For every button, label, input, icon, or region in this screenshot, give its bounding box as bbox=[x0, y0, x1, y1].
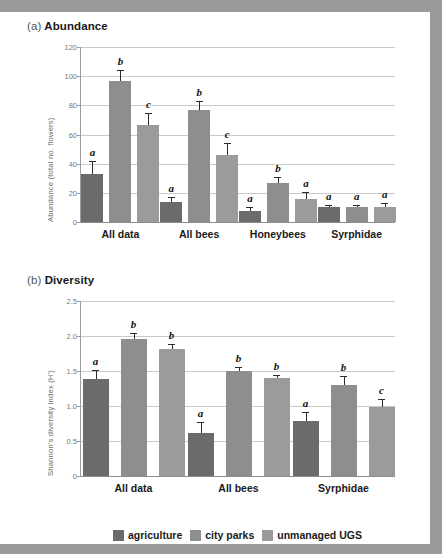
x-axis-category-label: All bees bbox=[179, 228, 219, 240]
error-bar bbox=[92, 161, 93, 173]
error-bar-cap bbox=[224, 143, 231, 144]
significance-letter: b bbox=[118, 55, 124, 67]
bar-unmanaged-UGS-all-bees bbox=[264, 378, 290, 476]
panel-a-title-text: Abundance bbox=[44, 20, 108, 32]
error-bar bbox=[201, 422, 202, 433]
y-tick-mark bbox=[77, 336, 81, 337]
significance-letter: a bbox=[247, 192, 253, 204]
significance-letter: b bbox=[131, 318, 137, 330]
bar-agriculture-all-data bbox=[81, 174, 103, 222]
error-bar-cap bbox=[168, 197, 175, 198]
x-axis-category-label: All data bbox=[101, 228, 139, 240]
y-tick-label: 60 bbox=[51, 130, 77, 139]
bar-agriculture-honeybees bbox=[239, 211, 261, 222]
y-tick-label: 0.5 bbox=[51, 437, 77, 446]
y-tick-mark bbox=[77, 47, 81, 48]
error-bar-cap bbox=[197, 422, 204, 423]
error-bar bbox=[199, 101, 200, 110]
bar-city-parks-all-data bbox=[121, 339, 147, 476]
bar-unmanaged-UGS-honeybees bbox=[295, 199, 317, 222]
error-bar bbox=[120, 70, 121, 82]
panel-b-title-text: Diversity bbox=[45, 274, 94, 286]
significance-letter: b bbox=[341, 361, 347, 373]
bar-city-parks-all-bees bbox=[188, 110, 210, 222]
error-bar-cap bbox=[340, 376, 347, 377]
error-bar-cap bbox=[274, 177, 281, 178]
legend-swatch-icon bbox=[113, 530, 124, 541]
bar-agriculture-all-data bbox=[83, 379, 109, 476]
error-bar-cap bbox=[381, 203, 388, 204]
significance-letter: a bbox=[90, 146, 96, 158]
legend-swatch-icon bbox=[262, 530, 273, 541]
y-tick-mark bbox=[77, 441, 81, 442]
error-bar-cap bbox=[196, 101, 203, 102]
legend-item-city-parks: city parks bbox=[190, 529, 254, 541]
significance-letter: b bbox=[274, 360, 280, 372]
significance-letter: c bbox=[379, 384, 384, 396]
bar-unmanaged-UGS-all-data bbox=[137, 125, 159, 222]
x-axis-category-label: Honeybees bbox=[250, 228, 306, 240]
x-axis-line bbox=[81, 222, 395, 223]
significance-letter: a bbox=[303, 397, 309, 409]
y-tick-mark bbox=[77, 301, 81, 302]
legend-swatch-icon bbox=[190, 530, 201, 541]
legend-label: agriculture bbox=[128, 529, 182, 541]
gridline bbox=[81, 301, 395, 302]
y-tick-mark bbox=[77, 222, 81, 223]
error-bar bbox=[344, 376, 345, 385]
bar-agriculture-syrphidae bbox=[318, 207, 340, 222]
y-tick-label: 2.0 bbox=[51, 332, 77, 341]
legend-label: unmanaged UGS bbox=[277, 529, 362, 541]
error-bar-cap bbox=[145, 113, 152, 114]
error-bar-cap bbox=[353, 205, 360, 206]
bar-unmanaged-UGS-syrphidae bbox=[374, 207, 396, 222]
bar-agriculture-all-bees bbox=[188, 433, 214, 476]
error-bar-cap bbox=[235, 367, 242, 368]
significance-letter: c bbox=[225, 128, 230, 140]
significance-letter: b bbox=[169, 329, 175, 341]
y-tick-label: 1.5 bbox=[51, 367, 77, 376]
y-tick-label: 2.5 bbox=[51, 297, 77, 306]
bar-city-parks-all-data bbox=[109, 81, 131, 222]
legend-item-agriculture: agriculture bbox=[113, 529, 182, 541]
y-tick-mark bbox=[77, 164, 81, 165]
bar-city-parks-syrphidae bbox=[331, 385, 357, 476]
error-bar-cap bbox=[378, 399, 385, 400]
legend-label: city parks bbox=[205, 529, 254, 541]
error-bar-cap bbox=[302, 412, 309, 413]
chart-legend: agriculturecity parksunmanaged UGS bbox=[113, 529, 362, 541]
gridline bbox=[81, 76, 395, 77]
y-tick-label: 80 bbox=[51, 101, 77, 110]
y-tick-label: 40 bbox=[51, 159, 77, 168]
error-bar bbox=[382, 399, 383, 407]
significance-letter: b bbox=[236, 352, 242, 364]
x-axis-category-label: All data bbox=[115, 482, 153, 494]
y-tick-mark bbox=[77, 476, 81, 477]
x-axis-category-label: All bees bbox=[218, 482, 258, 494]
panel-b-title: (b) Diversity bbox=[27, 274, 94, 286]
error-bar bbox=[306, 412, 307, 421]
gridline bbox=[81, 47, 395, 48]
significance-letter: b bbox=[196, 86, 202, 98]
legend-item-unmanaged-ugs: unmanaged UGS bbox=[262, 529, 362, 541]
figure-page: (a) Abundance Abundance (total no. flowe… bbox=[0, 12, 430, 544]
y-tick-mark bbox=[77, 105, 81, 106]
y-tick-mark bbox=[77, 406, 81, 407]
error-bar-cap bbox=[325, 205, 332, 206]
error-bar-cap bbox=[302, 192, 309, 193]
y-tick-mark bbox=[77, 76, 81, 77]
bar-agriculture-syrphidae bbox=[293, 421, 319, 476]
error-bar-cap bbox=[246, 207, 253, 208]
significance-letter: b bbox=[275, 162, 281, 174]
significance-letter: c bbox=[146, 98, 151, 110]
x-axis-category-label: Syrphidae bbox=[318, 482, 369, 494]
significance-letter: a bbox=[382, 188, 388, 200]
gridline bbox=[81, 336, 395, 337]
panel-a-title: (a) Abundance bbox=[27, 20, 108, 32]
error-bar-cap bbox=[130, 333, 137, 334]
y-tick-label: 1.0 bbox=[51, 402, 77, 411]
bar-city-parks-syrphidae bbox=[346, 207, 368, 222]
error-bar-cap bbox=[92, 370, 99, 371]
panel-b-prefix: (b) bbox=[27, 274, 41, 286]
y-tick-mark bbox=[77, 135, 81, 136]
